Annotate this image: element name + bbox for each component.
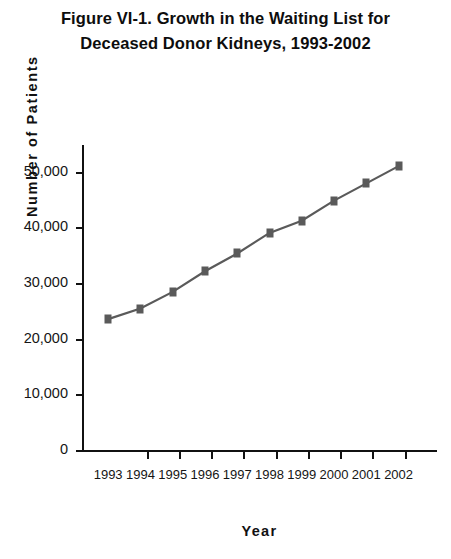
x-axis-tick-label: 1998 xyxy=(253,467,285,482)
x-axis-tick xyxy=(372,451,374,459)
series-line xyxy=(82,145,437,451)
x-axis-tick xyxy=(308,451,310,459)
y-axis-tick-label: 30,000 xyxy=(24,274,68,290)
x-axis-tick-label: 1993 xyxy=(92,467,124,482)
figure-title-line-1: Figure VI-1. Growth in the Waiting List … xyxy=(0,6,451,31)
data-point-marker xyxy=(298,216,305,225)
x-axis-tick xyxy=(147,451,149,459)
y-axis-tick-label: 0 xyxy=(60,441,68,457)
x-axis-tick xyxy=(276,451,278,459)
x-axis-tick-label: 1997 xyxy=(221,467,253,482)
x-axis-tick-label: 1994 xyxy=(124,467,156,482)
x-axis-tick-label: 1995 xyxy=(157,467,189,482)
x-axis-tick-label: 2000 xyxy=(318,467,350,482)
data-point-marker xyxy=(331,196,338,205)
data-point-marker xyxy=(266,228,273,237)
x-axis-tick xyxy=(405,451,407,459)
plot-area: 010,00020,00030,00040,00050,000 19931994… xyxy=(82,145,437,451)
x-axis-label: Year xyxy=(82,523,437,539)
data-point-marker xyxy=(137,304,144,313)
x-axis-tick-label: 2001 xyxy=(350,467,382,482)
data-point-marker xyxy=(105,315,112,324)
x-axis-tick xyxy=(211,451,213,459)
data-point-marker xyxy=(201,267,208,276)
x-axis-tick xyxy=(340,451,342,459)
x-axis-tick-label: 2002 xyxy=(382,467,414,482)
figure-title: Figure VI-1. Growth in the Waiting List … xyxy=(0,6,451,56)
data-point-marker xyxy=(169,287,176,296)
y-axis-label: Number of Patients xyxy=(24,0,40,217)
data-point-marker xyxy=(234,249,241,258)
y-axis-tick-label: 10,000 xyxy=(24,385,68,401)
y-axis-tick-label: 20,000 xyxy=(24,330,68,346)
x-axis-tick-label: 1999 xyxy=(286,467,318,482)
data-point-marker xyxy=(395,162,402,171)
x-axis-tick xyxy=(179,451,181,459)
x-axis-tick xyxy=(243,451,245,459)
figure-container: Figure VI-1. Growth in the Waiting List … xyxy=(0,0,451,559)
data-point-marker xyxy=(363,179,370,188)
x-axis-tick-label: 1996 xyxy=(189,467,221,482)
figure-title-line-2: Deceased Donor Kidneys, 1993-2002 xyxy=(0,31,451,56)
y-axis-tick-label: 40,000 xyxy=(24,218,68,234)
